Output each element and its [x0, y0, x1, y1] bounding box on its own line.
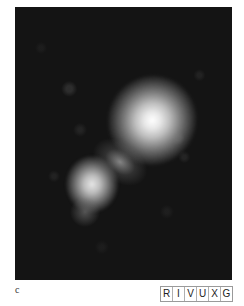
band-v: V — [185, 287, 197, 301]
wavelength-band-indicator: R I V U X G — [160, 286, 233, 302]
astronomical-image — [15, 7, 232, 280]
faint-tail — [70, 197, 100, 227]
band-r: R — [161, 287, 173, 301]
band-g: G — [221, 287, 232, 301]
band-i: I — [173, 287, 185, 301]
band-x: X — [209, 287, 221, 301]
band-u: U — [197, 287, 209, 301]
panel-label: c — [15, 284, 19, 295]
